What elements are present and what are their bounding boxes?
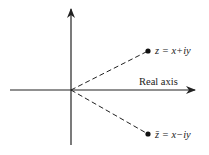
- complex-plane-diagram: Real axis z = x+iy z̄ = x−iy: [0, 0, 209, 155]
- z-point: [145, 48, 150, 53]
- z-vector: [71, 51, 148, 90]
- z-conjugate-vector: [71, 90, 148, 134]
- z-conjugate-point: [145, 131, 150, 136]
- z-label: z = x+iy: [154, 45, 191, 56]
- z-conjugate-label: z̄ = x−iy: [154, 129, 191, 140]
- real-axis-label: Real axis: [139, 76, 178, 87]
